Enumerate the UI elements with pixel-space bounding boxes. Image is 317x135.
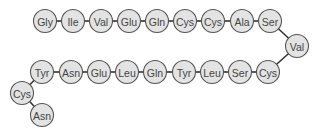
residue-gln: Gln bbox=[146, 10, 169, 33]
residue-label: Val bbox=[290, 41, 304, 53]
residue-label: Tyr bbox=[35, 67, 50, 79]
residue-label: Leu bbox=[118, 67, 136, 79]
residue-label: Tyr bbox=[177, 67, 192, 79]
residue-label: Ile bbox=[67, 16, 78, 28]
residue-cys: Cys bbox=[11, 82, 34, 105]
residue-glu: Glu bbox=[88, 61, 111, 84]
residue-label: Asn bbox=[62, 67, 80, 79]
residue-label: Glu bbox=[91, 67, 108, 79]
residue-cys: Cys bbox=[202, 10, 225, 33]
residue-ile: Ile bbox=[62, 10, 85, 33]
residue-cys: Cys bbox=[174, 10, 197, 33]
residue-label: Cys bbox=[13, 88, 31, 100]
residue-label: Gly bbox=[37, 16, 54, 28]
residue-label: Gln bbox=[149, 16, 166, 28]
residue-label: Gln bbox=[147, 67, 164, 79]
residue-ser: Ser bbox=[229, 61, 252, 84]
residue-label: Ala bbox=[234, 16, 249, 28]
residue-label: Cys bbox=[204, 16, 222, 28]
residue-leu: Leu bbox=[116, 61, 139, 84]
residue-glu: Glu bbox=[118, 10, 141, 33]
residue-tyr: Tyr bbox=[173, 61, 196, 84]
residue-val: Val bbox=[90, 10, 113, 33]
residue-asn: Asn bbox=[60, 61, 83, 84]
residue-leu: Leu bbox=[201, 61, 224, 84]
residue-label: Ser bbox=[232, 67, 249, 79]
residue-label: Ser bbox=[262, 16, 279, 28]
residue-cys: Cys bbox=[257, 61, 280, 84]
amino-acid-chain-diagram: GlyIleValGluGlnCysCysAlaSerValCysSerLeuT… bbox=[0, 0, 317, 135]
residue-label: Cys bbox=[259, 67, 277, 79]
residue-tyr: Tyr bbox=[31, 61, 54, 84]
residue-label: Asn bbox=[33, 110, 51, 122]
residue-label: Val bbox=[94, 16, 108, 28]
residue-label: Glu bbox=[121, 16, 138, 28]
residue-asn: Asn bbox=[31, 104, 54, 127]
residue-label: Leu bbox=[203, 67, 221, 79]
residue-ala: Ala bbox=[231, 10, 254, 33]
residue-label: Cys bbox=[176, 16, 194, 28]
residues: GlyIleValGluGlnCysCysAlaSerValCysSerLeuT… bbox=[11, 10, 309, 127]
residue-gly: Gly bbox=[34, 10, 57, 33]
residue-val: Val bbox=[286, 35, 309, 58]
residue-ser: Ser bbox=[259, 10, 282, 33]
residue-gln: Gln bbox=[144, 61, 167, 84]
